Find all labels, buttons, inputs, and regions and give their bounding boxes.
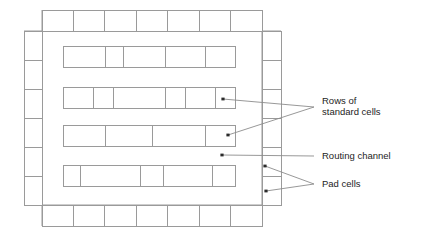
annot-text-line: Routing channel	[322, 150, 391, 161]
annotation-group: Rows ofstandard cellsRouting channelPad …	[220, 95, 390, 193]
standard-cell[interactable]	[141, 166, 164, 187]
pad-cell[interactable]	[43, 206, 74, 227]
annot-text-line: standard cells	[322, 106, 381, 117]
standard-cell[interactable]	[186, 88, 216, 109]
pad-cell[interactable]	[43, 11, 74, 32]
standard-cell[interactable]	[64, 126, 106, 147]
standard-cell-row-4[interactable]	[64, 166, 236, 187]
standard-cell[interactable]	[106, 126, 153, 147]
pad-cell[interactable]	[263, 32, 282, 61]
pad-cell[interactable]	[263, 61, 282, 90]
pad-cell[interactable]	[25, 177, 43, 206]
pad-cell[interactable]	[137, 11, 168, 32]
pad-cell[interactable]	[231, 206, 263, 227]
pad-cell[interactable]	[168, 11, 200, 32]
standard-cell-row-3[interactable]	[64, 126, 236, 147]
standard-cell[interactable]	[213, 166, 236, 187]
standard-cell[interactable]	[206, 47, 236, 68]
standard-cell-rows[interactable]	[64, 47, 236, 187]
leader-line	[222, 155, 314, 156]
pad-cell[interactable]	[168, 206, 200, 227]
annot-text-line: Rows of	[322, 95, 357, 106]
annotation-pad-cells-label: Pad cells	[322, 178, 361, 189]
pad-row-bottom[interactable]	[43, 206, 263, 227]
pad-cell[interactable]	[263, 148, 282, 177]
standard-cell[interactable]	[166, 47, 206, 68]
pad-cell[interactable]	[105, 11, 137, 32]
annotation-routing-channel: Routing channel	[220, 150, 390, 161]
standard-cell[interactable]	[166, 88, 186, 109]
standard-cell[interactable]	[64, 47, 106, 68]
standard-cell[interactable]	[64, 88, 94, 109]
pad-cell[interactable]	[25, 61, 43, 90]
standard-cell[interactable]	[64, 166, 81, 187]
floorplan-diagram: Rows ofstandard cellsRouting channelPad …	[0, 0, 426, 236]
standard-cell[interactable]	[94, 88, 114, 109]
pad-cell[interactable]	[200, 206, 231, 227]
pad-cell[interactable]	[25, 32, 43, 61]
annot-text-line: Pad cells	[322, 178, 361, 189]
annotation-routing-channel-label: Routing channel	[322, 150, 391, 161]
standard-cell[interactable]	[153, 126, 206, 147]
leader-endpoint-dot	[226, 134, 229, 137]
pad-cell[interactable]	[74, 206, 105, 227]
standard-cell[interactable]	[81, 166, 141, 187]
standard-cell[interactable]	[124, 47, 166, 68]
pad-column-left[interactable]	[25, 32, 43, 206]
leader-endpoint-dot	[263, 165, 266, 168]
pad-cell[interactable]	[200, 11, 231, 32]
standard-cell[interactable]	[106, 47, 124, 68]
pad-cell[interactable]	[25, 119, 43, 148]
pad-cell[interactable]	[25, 90, 43, 119]
pad-cell[interactable]	[74, 11, 105, 32]
standard-cell[interactable]	[216, 88, 236, 109]
leader-endpoint-dot	[264, 190, 267, 193]
standard-cell-row-2[interactable]	[64, 88, 236, 109]
standard-cell-row-1[interactable]	[64, 47, 236, 68]
pad-cell[interactable]	[25, 148, 43, 177]
pad-row-top[interactable]	[43, 11, 263, 32]
leader-endpoint-dot	[221, 98, 224, 101]
leader-endpoint-dot	[220, 154, 223, 157]
standard-cell[interactable]	[164, 166, 213, 187]
pad-cell[interactable]	[137, 206, 168, 227]
pad-cell[interactable]	[105, 206, 137, 227]
diagram-page: Rows ofstandard cellsRouting channelPad …	[0, 0, 426, 236]
standard-cell[interactable]	[206, 126, 236, 147]
pad-cell[interactable]	[231, 11, 263, 32]
annotation-rows-of-standard-cells-label: Rows ofstandard cells	[322, 95, 381, 117]
annotation-rows-of-standard-cells: Rows ofstandard cells	[221, 95, 380, 137]
standard-cell[interactable]	[114, 88, 166, 109]
die-outline	[24, 10, 281, 226]
